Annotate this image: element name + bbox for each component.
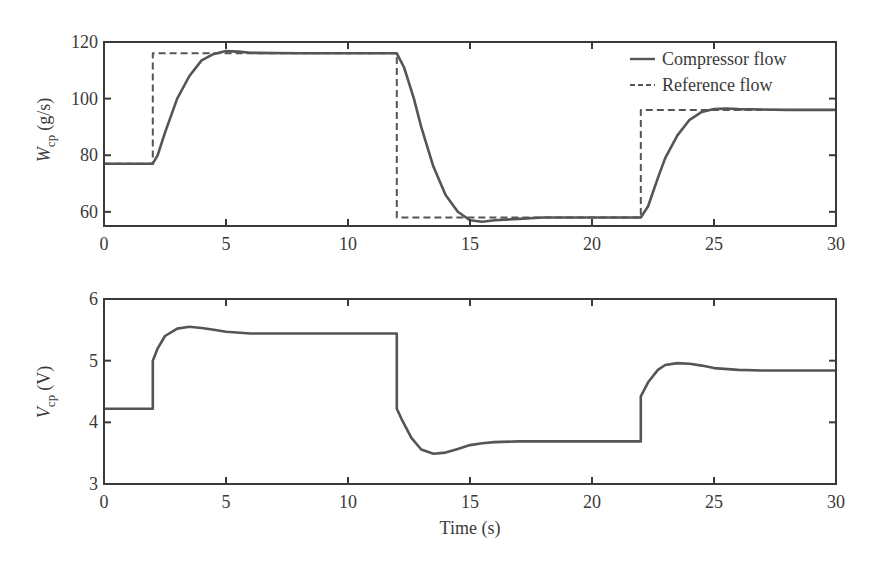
y-tick-label: 80 [80,145,98,165]
x-tick-label: 25 [705,234,723,254]
y-tick-label: 5 [89,351,98,371]
legend-label: Reference flow [662,75,772,95]
x-tick-label: 20 [583,234,601,254]
x-axis-title: Time (s) [440,518,501,539]
x-tick-label: 5 [222,492,231,512]
plot-frame [104,299,836,484]
legend: Compressor flowReference flow [630,49,787,95]
flow-plot: 0510152025306080100120Wcp(g/s)Compressor… [34,32,845,254]
x-tick-label: 15 [461,492,479,512]
y-tick-label: 3 [89,474,98,494]
x-tick-label: 20 [583,492,601,512]
y-tick-label: 6 [89,289,98,309]
y-tick-label: 60 [80,202,98,222]
plot-frame [104,42,836,226]
voltage-plot: 0510152025303456Vcp(V)Time (s) [34,289,845,539]
x-tick-label: 0 [100,234,109,254]
x-tick-label: 30 [827,234,845,254]
x-tick-label: 30 [827,492,845,512]
y-tick-label: 4 [89,412,98,432]
y-tick-label: 120 [71,32,98,52]
y-axis-title: Wcp(g/s) [34,98,58,162]
x-tick-label: 10 [339,492,357,512]
y-tick-label: 100 [71,89,98,109]
figure: 0510152025306080100120Wcp(g/s)Compressor… [0,0,887,565]
legend-label: Compressor flow [662,49,787,69]
x-tick-label: 0 [100,492,109,512]
y-axis-title: Vcp(V) [34,366,58,418]
x-tick-label: 15 [461,234,479,254]
x-tick-label: 5 [222,234,231,254]
x-tick-label: 10 [339,234,357,254]
compressor-voltage-line [104,327,836,454]
x-tick-label: 25 [705,492,723,512]
